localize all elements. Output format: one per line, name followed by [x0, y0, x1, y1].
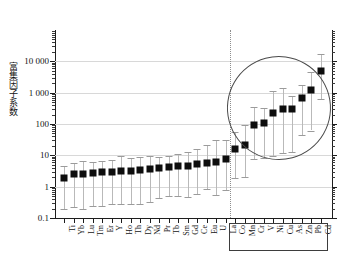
error-bar-cap [61, 166, 68, 167]
y-tick-label: 10 000 [24, 56, 49, 66]
heavy-metal-ellipse [215, 44, 343, 172]
axis-line-bottom [55, 218, 332, 219]
error-bar-cap [127, 204, 134, 205]
y-tick-minor [332, 96, 335, 97]
data-point-lu [80, 170, 87, 177]
error-bar [64, 166, 65, 209]
y-tick-minor [52, 162, 55, 163]
y-tick-minor [52, 188, 55, 189]
data-point-ce [194, 160, 201, 167]
error-bar [216, 140, 217, 195]
error-bar-cap [146, 202, 153, 203]
y-tick-minor [52, 160, 55, 161]
y-tick-minor [52, 63, 55, 64]
x-tick [197, 218, 198, 223]
y-tick-minor [52, 52, 55, 53]
error-bar-cap [118, 204, 125, 205]
y-tick-minor [332, 37, 335, 38]
data-point-er [99, 169, 106, 176]
error-bar-cap [156, 198, 163, 199]
error-bar-cap [194, 149, 201, 150]
y-tick-minor [332, 78, 335, 79]
y-tick-minor [332, 100, 335, 101]
y-tick-minor [52, 194, 55, 195]
y-tick-minor [52, 196, 55, 197]
y-tick-minor [52, 115, 55, 116]
x-tick [169, 218, 170, 223]
heavy-metal-label-box [229, 223, 328, 251]
error-bar [150, 156, 151, 202]
error-bar-cap [137, 157, 144, 158]
x-tick [93, 218, 94, 223]
y-tick-minor [332, 33, 335, 34]
x-tick [226, 218, 227, 223]
error-bar-cap [156, 157, 163, 158]
y-tick-minor [332, 131, 335, 132]
y-tick-minor [332, 35, 335, 36]
y-tick-minor [332, 71, 335, 72]
y-tick-minor [52, 94, 55, 95]
error-bar [159, 157, 160, 198]
y-tick-minor [52, 68, 55, 69]
y-tick-label: 1 000 [29, 88, 49, 98]
x-tick-label-th: Th [134, 225, 143, 234]
y-tick-minor [332, 63, 335, 64]
error-bar-cap [165, 156, 172, 157]
x-tick [188, 218, 189, 223]
gridline [55, 187, 332, 188]
error-bar [140, 157, 141, 204]
error-bar-cap [213, 140, 220, 141]
error-bar-cap [80, 161, 87, 162]
y-tick-minor [52, 98, 55, 99]
error-bar-cap [203, 145, 210, 146]
y-tick-minor [52, 157, 55, 158]
y-tick-minor [52, 74, 55, 75]
x-tick-label-sm: Sm [182, 225, 191, 236]
y-tick-minor [52, 64, 55, 65]
y-tick-minor [332, 46, 335, 47]
error-bar [188, 152, 189, 197]
error-bar-cap [89, 206, 96, 207]
error-bar-cap [184, 152, 191, 153]
y-tick-minor [332, 165, 335, 166]
x-tick-label-ce: Ce [200, 225, 209, 234]
y-tick-minor [332, 83, 335, 84]
error-bar [93, 162, 94, 206]
error-bar-cap [222, 190, 229, 191]
x-tick [74, 218, 75, 223]
y-tick-minor [52, 136, 55, 137]
x-tick-label-dy: Dy [144, 225, 153, 235]
data-point-th [127, 167, 134, 174]
y-axis-title: 富集因子系数 [2, 62, 18, 116]
y-tick-minor [52, 146, 55, 147]
y-tick-minor [52, 140, 55, 141]
x-tick [150, 218, 151, 223]
y-tick-minor [332, 140, 335, 141]
data-point-ho [118, 168, 125, 175]
y-tick-minor [332, 158, 335, 159]
x-tick [216, 218, 217, 223]
x-tick-label-eu: Eu [210, 225, 219, 234]
y-tick-minor [52, 33, 55, 34]
data-point-tm [89, 170, 96, 177]
y-tick-minor [332, 160, 335, 161]
data-point-eu [203, 160, 210, 167]
y-tick-minor [332, 98, 335, 99]
x-tick-label-gd: Gd [191, 225, 200, 235]
x-tick [140, 218, 141, 223]
y-tick-label: 100 [36, 119, 50, 129]
y-tick-minor [52, 199, 55, 200]
x-tick [159, 218, 160, 223]
x-tick [121, 218, 122, 223]
x-tick-label-pr: Pr [163, 225, 172, 232]
y-tick-minor [332, 102, 335, 103]
data-point-co [232, 145, 239, 152]
y-tick-minor [52, 190, 55, 191]
y-tick-minor [332, 146, 335, 147]
y-tick-minor [332, 203, 335, 204]
y-tick-minor [52, 192, 55, 193]
y-tick-minor [332, 172, 335, 173]
x-tick-label-y: Y [115, 225, 124, 231]
y-tick-minor [332, 68, 335, 69]
error-bar-cap [213, 195, 220, 196]
